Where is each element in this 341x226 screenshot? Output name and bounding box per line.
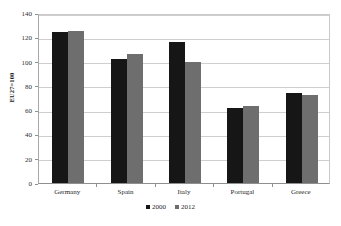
y-tick-label: 20 — [2, 156, 32, 164]
x-axis-tick-labels: GermanySpainItalyPortugalGreece — [38, 188, 330, 202]
legend-entry-2000: 2000 — [146, 203, 166, 211]
bar-germany-2000 — [52, 32, 68, 183]
x-tick-label-portugal: Portugal — [212, 188, 272, 196]
chart-legend: 20002012 — [0, 203, 341, 211]
bar-portugal-2012 — [243, 106, 259, 183]
y-tick-label: 120 — [2, 34, 32, 42]
x-tick-label-greece: Greece — [271, 188, 331, 196]
x-tick-mark — [96, 184, 97, 187]
x-tick-mark — [213, 184, 214, 187]
bars-layer — [39, 15, 329, 183]
bar-greece-2000 — [286, 93, 302, 183]
legend-label-2000: 2000 — [152, 203, 166, 211]
legend-swatch-2000 — [146, 205, 150, 209]
bar-group — [169, 15, 201, 183]
bar-chart: EU27=100 020406080100120140 GermanySpain… — [0, 0, 341, 226]
y-tick-label: 40 — [2, 131, 32, 139]
bar-greece-2012 — [302, 95, 318, 183]
bar-italy-2000 — [169, 42, 185, 183]
y-tick-label: 140 — [2, 10, 32, 18]
legend-label-2012: 2012 — [181, 203, 195, 211]
bar-group — [227, 15, 259, 183]
x-tick-label-germany: Germany — [37, 188, 97, 196]
x-tick-mark — [272, 184, 273, 187]
bar-italy-2012 — [185, 62, 201, 183]
legend-swatch-2012 — [175, 205, 179, 209]
x-tick-label-spain: Spain — [96, 188, 156, 196]
plot-area — [38, 14, 330, 184]
bar-germany-2012 — [68, 31, 84, 183]
legend-entry-2012: 2012 — [175, 203, 195, 211]
y-tick-label: 60 — [2, 107, 32, 115]
bar-portugal-2000 — [227, 108, 243, 183]
y-tick-label: 80 — [2, 83, 32, 91]
bar-group — [111, 15, 143, 183]
bar-group — [286, 15, 318, 183]
x-tick-mark — [155, 184, 156, 187]
y-tick-label: 0 — [2, 180, 32, 188]
bar-spain-2000 — [111, 59, 127, 183]
bar-group — [52, 15, 84, 183]
x-tick-label-italy: Italy — [154, 188, 214, 196]
bar-spain-2012 — [127, 54, 143, 183]
y-tick-label: 100 — [2, 59, 32, 67]
